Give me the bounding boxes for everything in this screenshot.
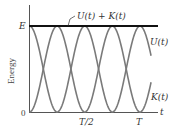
x-tick-period: T	[136, 117, 143, 127]
x-axis-label: t	[160, 107, 164, 117]
y-tick-zero: 0	[21, 108, 26, 118]
x-tick-half-period: T/2	[79, 117, 94, 127]
y-tick-e: E	[18, 21, 26, 31]
total-energy-leader	[68, 16, 75, 26]
total-energy-label: U(t) + K(t)	[77, 11, 126, 21]
kinetic-energy-label: K(t)	[150, 92, 169, 102]
potential-energy-label: U(t)	[150, 37, 169, 47]
energy-chart: U(t) + K(t) U(t) K(t) E 0 T/2 T t Energy	[0, 0, 172, 131]
y-axis-label: Energy	[6, 58, 16, 84]
